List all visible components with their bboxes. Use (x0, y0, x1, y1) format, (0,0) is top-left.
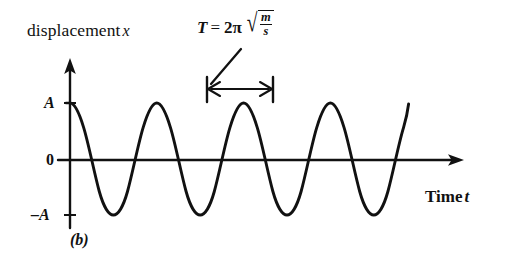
panel-label: (b) (70, 232, 89, 248)
x-axis-title-symbol: t (462, 187, 469, 206)
radical-sign-icon: √ (247, 12, 258, 40)
y-axis-title-text: displacement (27, 20, 121, 40)
formula-symbol-T: T (197, 19, 207, 36)
x-axis-title: Timet (425, 188, 469, 205)
period-double-arrow (208, 82, 272, 96)
y-axis-title: displacementx (27, 22, 130, 40)
period-formula: T = 2π √ m s (197, 12, 274, 42)
formula-denominator-s: s (263, 25, 270, 38)
y-tick-label-amplitude: A (44, 95, 55, 111)
y-axis-title-symbol: x (121, 22, 130, 39)
formula-leader-line (211, 49, 241, 84)
y-tick-label-negative-amplitude: –A (31, 207, 50, 223)
formula-fraction: m s (258, 10, 274, 38)
x-axis-title-text: Time (425, 187, 462, 206)
formula-equals-sign: = (207, 19, 224, 36)
y-axis (64, 58, 76, 228)
y-tick-label-zero: 0 (46, 152, 54, 168)
formula-radical: √ m s (245, 12, 274, 40)
figure-container: displacementx Timet A 0 –A (b) T = 2π √ … (0, 0, 507, 272)
x-axis (58, 154, 464, 166)
formula-numerator-m: m (260, 11, 272, 25)
formula-coefficient-two-pi: 2π (224, 19, 242, 36)
